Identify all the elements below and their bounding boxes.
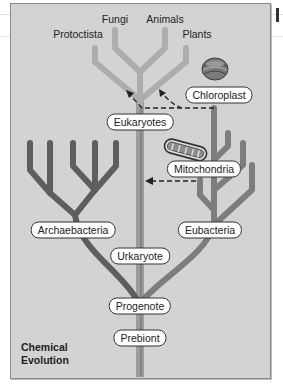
arrowhead-mitochondria — [145, 177, 153, 185]
eukaryote-branches — [95, 30, 186, 104]
label-protoctista: Protoctista — [53, 28, 103, 40]
mitochondrion-icon — [163, 138, 208, 163]
chemical-evolution-line1: Chemical — [21, 341, 69, 354]
node-eubacteria: Eubacteria — [178, 222, 242, 239]
eubacteria-branches — [143, 108, 252, 300]
chloroplast-icon — [202, 58, 228, 80]
chemical-evolution-line2: Evolution — [21, 354, 69, 367]
node-chloroplast: Chloroplast — [185, 87, 252, 104]
node-mitochondria: Mitochondria — [167, 161, 241, 178]
node-prebiont: Prebiont — [113, 330, 166, 347]
node-eukaryotes: Eukaryotes — [107, 114, 174, 131]
node-progenote: Progenote — [109, 298, 171, 315]
label-plants: Plants — [182, 28, 211, 40]
label-fungi: Fungi — [102, 13, 128, 25]
chemical-evolution-label: Chemical Evolution — [21, 341, 69, 367]
node-archaebacteria: Archaebacteria — [31, 222, 116, 239]
node-urkaryote: Urkaryote — [110, 248, 170, 265]
label-animals: Animals — [146, 13, 183, 25]
arrowhead-plants — [159, 89, 166, 97]
